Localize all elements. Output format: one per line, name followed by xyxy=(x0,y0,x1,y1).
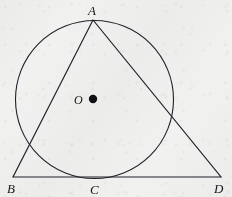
geometry-canvas xyxy=(0,0,232,197)
vertex-label-c: C xyxy=(90,183,99,196)
vertex-label-a: A xyxy=(88,4,96,17)
center-dot-icon xyxy=(89,95,97,103)
triangle-group xyxy=(13,20,221,177)
center-marker-group xyxy=(89,95,97,103)
triangle-abd xyxy=(13,20,221,177)
vertex-label-d: D xyxy=(214,182,223,195)
geometry-figure: A B C D O xyxy=(0,0,232,197)
center-label-o: O xyxy=(74,94,83,106)
vertex-label-b: B xyxy=(7,182,15,195)
